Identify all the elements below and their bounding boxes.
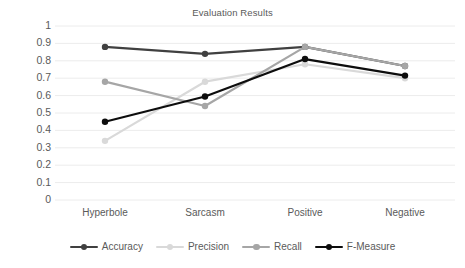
data-point xyxy=(102,138,108,144)
gridlines xyxy=(55,26,455,200)
chart-legend: AccuracyPrecisionRecallF-Measure xyxy=(0,241,465,252)
data-point xyxy=(102,78,108,84)
legend-item-f-measure[interactable]: F-Measure xyxy=(315,241,395,252)
legend-item-precision[interactable]: Precision xyxy=(156,241,229,252)
legend-item-accuracy[interactable]: Accuracy xyxy=(70,241,143,252)
data-point xyxy=(202,78,208,84)
legend-label: Recall xyxy=(274,241,302,252)
legend-label: F-Measure xyxy=(347,241,395,252)
legend-item-recall[interactable]: Recall xyxy=(242,241,302,252)
data-point xyxy=(402,63,408,69)
x-tick-label: Positive xyxy=(287,207,322,218)
data-point xyxy=(302,56,308,62)
x-tick-label: Negative xyxy=(385,207,424,218)
legend-label: Accuracy xyxy=(102,241,143,252)
plot-area xyxy=(0,0,465,268)
data-point xyxy=(202,93,208,99)
evaluation-results-chart: Evaluation Results 00.10.20.30.40.50.60.… xyxy=(0,0,465,268)
x-tick-label: Sarcasm xyxy=(185,207,224,218)
legend-swatch-icon xyxy=(242,242,270,252)
data-point xyxy=(102,44,108,50)
data-point xyxy=(202,103,208,109)
data-point xyxy=(202,51,208,57)
x-axis: HyperboleSarcasmPositiveNegative xyxy=(55,207,455,225)
series-line-recall xyxy=(105,47,405,106)
x-tick-label: Hyperbole xyxy=(82,207,128,218)
data-point xyxy=(402,72,408,78)
legend-swatch-icon xyxy=(156,242,184,252)
data-point xyxy=(302,44,308,50)
data-point xyxy=(102,119,108,125)
legend-swatch-icon xyxy=(315,242,343,252)
legend-label: Precision xyxy=(188,241,229,252)
legend-swatch-icon xyxy=(70,242,98,252)
series-line-f-measure xyxy=(105,59,405,122)
